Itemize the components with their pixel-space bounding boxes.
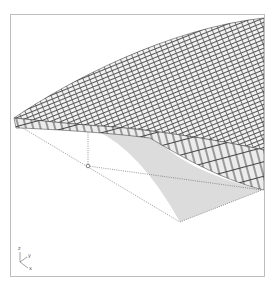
z-axis-label: z: [18, 245, 21, 251]
viewport: z y x: [0, 0, 278, 281]
y-axis-label: y: [28, 252, 31, 259]
vault-render: z y x: [0, 0, 278, 281]
y-axis: [20, 257, 27, 262]
x-axis: [20, 262, 28, 268]
axis-gizmo: [20, 252, 28, 268]
control-point: [86, 164, 90, 168]
x-axis-label: x: [29, 265, 32, 271]
